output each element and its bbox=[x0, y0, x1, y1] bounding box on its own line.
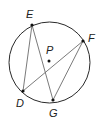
label-e: E bbox=[26, 8, 34, 20]
circle-diagram: E F D G P bbox=[0, 0, 103, 127]
point-f bbox=[81, 39, 84, 42]
point-d bbox=[21, 89, 24, 92]
label-p: P bbox=[46, 44, 54, 56]
label-d: D bbox=[16, 97, 24, 109]
point-e bbox=[30, 23, 33, 26]
chord-eg bbox=[32, 25, 53, 100]
point-g bbox=[51, 98, 54, 101]
circle-p bbox=[9, 22, 90, 103]
label-f: F bbox=[88, 32, 96, 44]
label-g: G bbox=[49, 107, 58, 119]
center-point-p bbox=[48, 60, 51, 63]
chord-ed bbox=[23, 25, 32, 91]
